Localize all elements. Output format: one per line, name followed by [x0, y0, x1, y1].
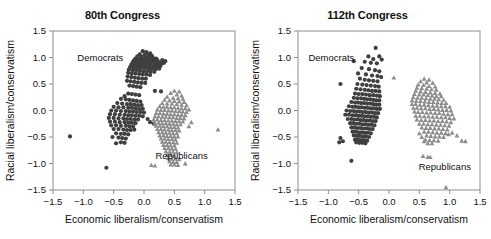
data-point — [157, 67, 161, 71]
x-axis-title: Economic liberalism/conservatism — [65, 213, 223, 225]
data-point — [109, 123, 113, 127]
data-point — [179, 93, 184, 97]
data-point — [133, 93, 137, 97]
series-annotation: Democrats — [77, 52, 123, 63]
x-tick-label: −0.5 — [349, 196, 368, 207]
series-republicans — [391, 75, 467, 189]
data-point — [113, 112, 117, 116]
data-point — [144, 77, 148, 81]
data-point — [138, 110, 142, 114]
y-tick-label: 1.0 — [33, 52, 46, 63]
data-point — [348, 109, 352, 113]
data-point — [377, 89, 381, 93]
data-point — [364, 83, 368, 87]
data-point — [371, 93, 375, 97]
data-point — [130, 71, 134, 75]
data-point — [364, 72, 368, 76]
figure-two-panel-scatter: 80th Congress −1.5−1.0−0.50.00.51.01.5−1… — [0, 0, 491, 239]
data-point — [372, 123, 376, 127]
data-point — [435, 130, 440, 134]
data-point — [116, 127, 120, 131]
data-point — [140, 77, 144, 81]
data-point — [122, 132, 126, 136]
data-point — [116, 116, 120, 120]
y-tick-label: 0.0 — [33, 105, 46, 116]
data-point — [148, 120, 152, 124]
data-point — [186, 107, 191, 111]
data-point — [112, 105, 116, 109]
data-point — [120, 102, 124, 106]
data-point — [137, 72, 141, 76]
data-point — [124, 97, 128, 101]
y-tick-label: 1.5 — [33, 25, 46, 36]
data-point — [126, 113, 130, 117]
data-point — [143, 81, 147, 85]
data-point — [374, 119, 378, 123]
data-point — [370, 73, 374, 77]
data-point — [366, 88, 370, 92]
data-point — [125, 102, 129, 106]
data-point — [129, 102, 133, 106]
data-point — [379, 75, 383, 79]
x-tick-label: 1.0 — [443, 196, 456, 207]
series-annotation: Democrats — [308, 52, 354, 63]
data-point — [141, 114, 145, 118]
data-point — [358, 87, 362, 91]
data-point — [129, 117, 133, 121]
data-point — [142, 111, 146, 115]
data-point — [367, 67, 371, 71]
data-point — [349, 100, 353, 104]
data-point — [119, 132, 123, 136]
data-point — [127, 109, 131, 113]
x-tick-label: −0.5 — [104, 196, 123, 207]
data-point — [444, 185, 449, 189]
data-point — [380, 58, 384, 62]
data-point — [110, 135, 114, 139]
x-tick-label: 1.5 — [473, 196, 486, 207]
data-point — [373, 84, 377, 88]
x-tick-label: 0.5 — [413, 196, 426, 207]
data-point — [391, 75, 396, 79]
data-point — [375, 74, 379, 78]
data-point — [136, 80, 140, 84]
x-tick-label: 0.0 — [382, 196, 395, 207]
data-point — [421, 154, 426, 158]
data-point — [370, 89, 374, 93]
data-point — [374, 89, 378, 93]
series-democrats — [68, 49, 167, 170]
data-point — [120, 136, 124, 140]
data-point — [377, 103, 381, 107]
data-point — [137, 93, 141, 97]
data-point — [367, 135, 371, 139]
data-point — [360, 92, 364, 96]
y-axis-title: Racial liberalism/conservatism — [249, 40, 261, 181]
data-point — [119, 97, 123, 101]
data-point — [338, 82, 342, 86]
data-point — [349, 159, 353, 163]
data-point — [132, 80, 136, 84]
y-tick-label: 0.5 — [33, 78, 46, 89]
data-point — [114, 123, 118, 127]
data-point — [152, 70, 156, 74]
data-point — [371, 127, 375, 131]
data-point — [112, 116, 116, 120]
data-point — [108, 112, 112, 116]
data-point — [427, 77, 432, 81]
panel-80th-congress: 80th Congress −1.5−1.0−0.50.00.51.01.5−1… — [0, 0, 245, 239]
x-tick-label: −1.0 — [74, 196, 93, 207]
data-point — [118, 120, 122, 124]
data-point — [113, 120, 117, 124]
x-tick-label: 1.5 — [228, 196, 241, 207]
data-point — [131, 84, 135, 88]
data-point — [130, 113, 134, 117]
data-point — [376, 111, 380, 115]
data-point — [369, 61, 373, 65]
data-point — [183, 161, 188, 165]
data-point — [356, 71, 360, 75]
data-point — [186, 124, 191, 128]
x-tick-label: 0.5 — [168, 196, 181, 207]
data-point — [371, 79, 375, 83]
data-point — [114, 131, 118, 135]
data-point — [159, 89, 163, 93]
data-point — [377, 98, 381, 102]
